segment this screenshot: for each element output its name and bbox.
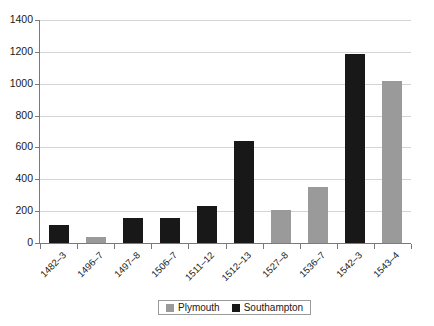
legend-entry: Southampton xyxy=(232,303,304,313)
legend-label: Southampton xyxy=(244,303,304,313)
x-tick-label: 1512–13 xyxy=(214,250,254,290)
bar xyxy=(308,187,328,243)
x-tick-label: 1542–3 xyxy=(325,250,365,290)
chart-legend: PlymouthSouthampton xyxy=(158,300,311,315)
x-tick-mark xyxy=(77,244,78,249)
y-tick-label: 0 xyxy=(0,237,33,248)
y-tick-label: 1400 xyxy=(0,14,33,25)
x-tick-label: 1506–7 xyxy=(139,250,179,290)
bar-chart: 0200400600800100012001400 1482–31496–714… xyxy=(0,0,434,326)
x-tick-mark xyxy=(114,244,115,249)
x-tick-label: 1496–7 xyxy=(65,250,105,290)
x-tick-label: 1527–8 xyxy=(251,250,291,290)
legend-label: Plymouth xyxy=(178,303,220,313)
bar xyxy=(234,141,254,243)
x-tick-mark xyxy=(40,244,41,249)
bar xyxy=(345,54,365,243)
x-tick-mark xyxy=(263,244,264,249)
bar xyxy=(160,218,180,243)
y-tick-label: 200 xyxy=(0,205,33,216)
x-tick-mark xyxy=(374,244,375,249)
y-tick-label: 1200 xyxy=(0,46,33,57)
legend-swatch xyxy=(232,304,240,312)
y-tick-label: 800 xyxy=(0,110,33,121)
x-tick-label: 1482–3 xyxy=(28,250,68,290)
bar xyxy=(271,210,291,243)
x-tick-label: 1536–7 xyxy=(288,250,328,290)
bar xyxy=(382,81,402,243)
bar xyxy=(86,237,106,243)
bar xyxy=(123,218,143,243)
x-tick-label: 1543–4 xyxy=(362,250,402,290)
y-tick-label: 600 xyxy=(0,141,33,152)
bar xyxy=(49,225,69,243)
x-tick-label: 1511–12 xyxy=(176,250,216,290)
y-tick-label: 1000 xyxy=(0,78,33,89)
x-tick-mark xyxy=(337,244,338,249)
x-tick-mark xyxy=(188,244,189,249)
legend-swatch xyxy=(166,304,174,312)
bar xyxy=(197,206,217,243)
y-tick-label: 400 xyxy=(0,173,33,184)
x-tick-mark xyxy=(411,244,412,249)
x-tick-mark xyxy=(300,244,301,249)
plot-area xyxy=(40,20,411,243)
x-tick-mark xyxy=(151,244,152,249)
x-tick-mark xyxy=(226,244,227,249)
x-tick-label: 1497–8 xyxy=(102,250,142,290)
legend-entry: Plymouth xyxy=(166,303,220,313)
